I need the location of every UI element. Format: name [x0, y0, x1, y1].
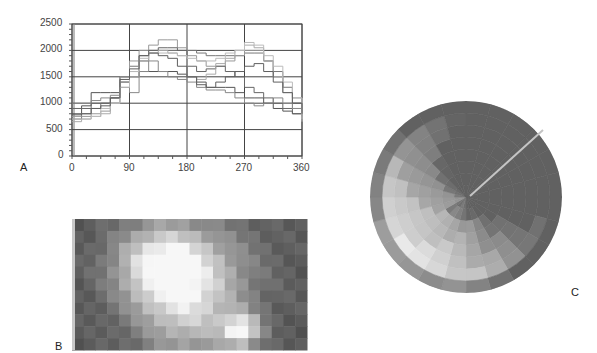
panel-c-label: C: [571, 286, 579, 298]
polar-bullseye-image: [0, 0, 597, 353]
